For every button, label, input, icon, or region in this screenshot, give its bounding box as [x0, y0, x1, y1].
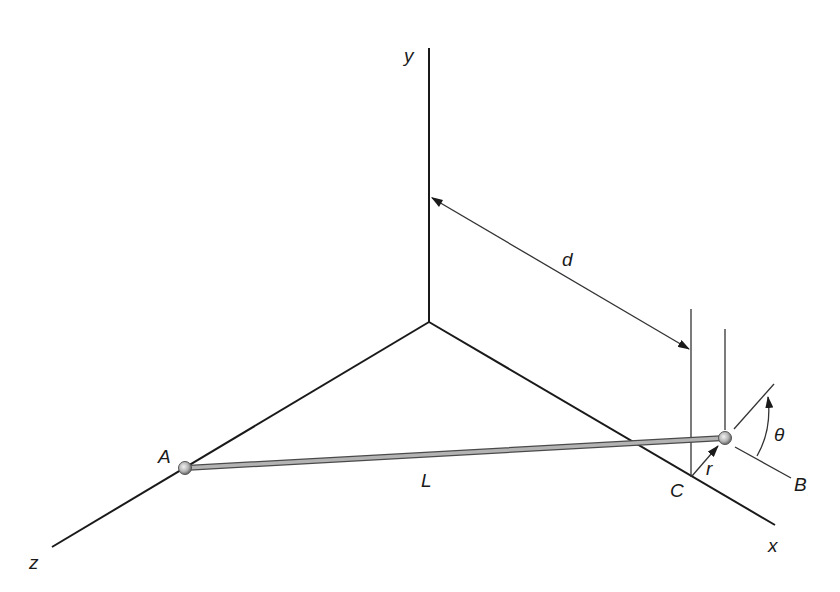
- ball-end: [719, 432, 732, 445]
- line-b: [735, 447, 791, 478]
- radius-r-label: r: [706, 458, 713, 479]
- distance-d-arrowhead-start: [431, 197, 443, 207]
- theta-arc: [757, 397, 769, 456]
- theta-label: θ: [774, 424, 785, 445]
- x-axis-label: x: [767, 535, 779, 556]
- ball-a: [179, 462, 192, 475]
- point-b-label: B: [794, 474, 807, 495]
- x-axis: [429, 322, 775, 525]
- radius-r-arrow: [692, 446, 718, 476]
- z-axis-label: z: [28, 552, 39, 573]
- y-axis-label: y: [402, 45, 415, 66]
- rod-l-fill: [185, 438, 725, 468]
- diagram-canvas: y x z d L A r C θ B: [0, 0, 840, 592]
- distance-d-label: d: [562, 249, 574, 270]
- point-a-label: A: [157, 446, 171, 467]
- z-axis: [52, 322, 429, 547]
- distance-d-arrow: [432, 198, 689, 349]
- length-l-label: L: [421, 470, 432, 491]
- point-c-label: C: [670, 480, 684, 501]
